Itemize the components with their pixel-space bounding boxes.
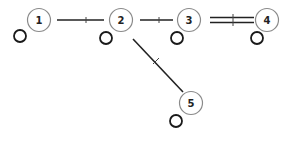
edge-1-2 (57, 17, 104, 23)
node-2: 2 (110, 9, 133, 32)
node-3-label: 3 (186, 15, 193, 26)
node-4: 4 (256, 9, 279, 32)
edge-3-4-double (210, 14, 254, 26)
edge-2-3 (140, 17, 173, 23)
self-loop-5 (170, 115, 182, 127)
node-3: 3 (178, 9, 201, 32)
node-1: 1 (28, 9, 51, 32)
node-5: 5 (180, 92, 203, 115)
self-loop-2 (100, 32, 112, 44)
node-4-label: 4 (264, 15, 271, 26)
node-1-label: 1 (36, 15, 43, 26)
edge-2-5 (133, 39, 183, 92)
node-5-label: 5 (188, 98, 195, 109)
node-2-label: 2 (118, 15, 125, 26)
self-loop-3 (171, 32, 183, 44)
self-loop-1 (14, 30, 26, 42)
self-loop-4 (251, 32, 263, 44)
graph-diagram: 1 2 3 4 5 (0, 0, 300, 141)
